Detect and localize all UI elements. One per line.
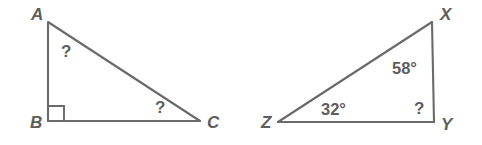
vertex-label-b: B	[30, 113, 42, 132]
angle-label-y: ?	[414, 99, 424, 118]
right-angle-marker-b	[48, 106, 64, 121]
angle-label-a: ?	[61, 42, 71, 61]
segment-ac	[48, 22, 200, 121]
geometry-figure-svg: A B C ? ? X Y Z 58° 32° ?	[0, 0, 482, 145]
vertex-label-x: X	[439, 5, 453, 24]
vertex-label-z: Z	[260, 113, 272, 132]
triangle-abc	[48, 22, 200, 121]
angle-label-z: 32°	[321, 100, 346, 118]
vertex-label-y: Y	[441, 115, 454, 134]
angle-label-c: ?	[155, 98, 165, 117]
vertex-label-c: C	[207, 113, 220, 132]
segment-xy	[432, 22, 434, 122]
angle-label-x: 58°	[392, 59, 417, 77]
vertex-label-a: A	[30, 5, 43, 24]
geometry-figure-canvas: A B C ? ? X Y Z 58° 32° ?	[0, 0, 482, 145]
